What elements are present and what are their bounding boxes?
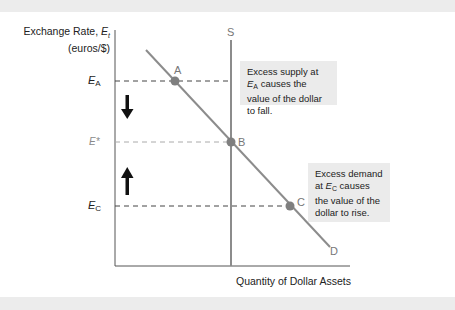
point-b-label: B (238, 136, 245, 148)
y-axis-var: E (101, 25, 108, 37)
point-a-label: A (174, 64, 181, 76)
supply-label: S (227, 26, 234, 38)
callout-excess-demand: Excess demand at EC causes the value of … (308, 163, 390, 222)
y-axis-label: Exchange Rate, Et (euros/$) (23, 25, 110, 55)
y-axis-sub: t (108, 32, 110, 39)
arrow-down-icon (121, 95, 134, 119)
tick-ea-sub: A (95, 79, 100, 88)
point-a (171, 77, 180, 86)
y-axis-label-text: Exchange Rate, (23, 25, 101, 37)
demand-label: D (330, 245, 338, 257)
tick-ec-sub: C (95, 204, 101, 213)
tick-estar-base: E* (89, 136, 100, 147)
arrow-up-icon (121, 167, 134, 195)
tick-label-ea: EA (88, 74, 101, 88)
callout-supply-prefix: Excess supply at (247, 66, 318, 77)
x-axis-label: Quantity of Dollar Assets (236, 275, 351, 287)
point-c (286, 202, 295, 211)
y-axis-units: (euros/$) (23, 42, 110, 55)
point-b (227, 138, 236, 147)
point-c-label: C (297, 196, 305, 208)
callout-excess-supply: Excess supply at EA causes the value of … (240, 61, 337, 105)
tick-label-ec: EC (88, 199, 101, 213)
tick-label-estar: E* (89, 136, 100, 147)
